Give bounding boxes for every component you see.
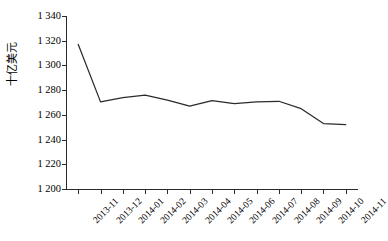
x-axis-tick bbox=[323, 190, 324, 194]
x-axis-tick bbox=[190, 190, 191, 194]
x-axis-tick bbox=[123, 190, 124, 194]
y-axis-tick-label: 1 240 bbox=[4, 135, 66, 145]
y-axis-tick-label: 1 340 bbox=[4, 11, 66, 21]
x-axis-tick bbox=[145, 190, 146, 194]
y-axis-tick-label: 1 200 bbox=[4, 184, 66, 194]
x-axis-tick bbox=[279, 190, 280, 194]
x-axis-tick bbox=[212, 190, 213, 194]
y-axis-tick-label: 1 260 bbox=[4, 110, 66, 120]
x-axis-tick bbox=[78, 190, 79, 194]
y-axis-tick-label: 1 320 bbox=[4, 36, 66, 46]
x-axis-tick bbox=[257, 190, 258, 194]
x-axis-tick bbox=[167, 190, 168, 194]
y-axis-tick-label: 1 280 bbox=[4, 85, 66, 95]
x-axis-tick bbox=[234, 190, 235, 194]
y-axis-line bbox=[66, 16, 67, 190]
x-axis-tick bbox=[301, 190, 302, 194]
x-axis-tick bbox=[346, 190, 347, 194]
x-axis-tick bbox=[101, 190, 102, 194]
y-axis-tick-label: 1 300 bbox=[4, 60, 66, 70]
y-axis-tick-label: 1 220 bbox=[4, 159, 66, 169]
